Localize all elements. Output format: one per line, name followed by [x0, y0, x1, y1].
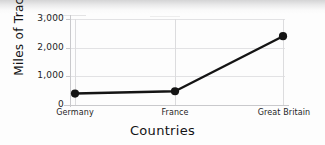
y-tick-mark-0 — [66, 105, 71, 106]
data-point-france — [171, 87, 179, 95]
y-tick-label-2000: 2,000 — [37, 42, 64, 52]
x-tick-label-great-britain: Great Britain — [246, 108, 322, 117]
y-tick-3000-wrap: 3,000 — [26, 13, 64, 25]
x-axis-line — [64, 105, 289, 106]
data-series-line — [70, 19, 285, 105]
scan-speck — [150, 16, 180, 17]
y-tick-label-3000: 3,000 — [37, 13, 64, 23]
y-tick-2000-wrap: 2,000 — [26, 42, 64, 54]
x-tick-label-france: France — [140, 108, 210, 117]
y-axis-title: Miles of Track — [12, 0, 26, 88]
x-axis-title: Countries — [0, 123, 325, 138]
plot-area — [70, 19, 285, 105]
chart-page: Miles of Track 3,000 2,000 1,000 0 Ge — [0, 0, 325, 145]
data-point-germany — [71, 89, 79, 97]
y-tick-1000-wrap: 1,000 — [26, 70, 64, 82]
scan-gradient-band — [0, 0, 325, 14]
y-tick-label-1000: 1,000 — [37, 70, 64, 80]
x-tick-label-germany: Germany — [40, 108, 110, 117]
data-point-great-britain — [279, 32, 287, 40]
